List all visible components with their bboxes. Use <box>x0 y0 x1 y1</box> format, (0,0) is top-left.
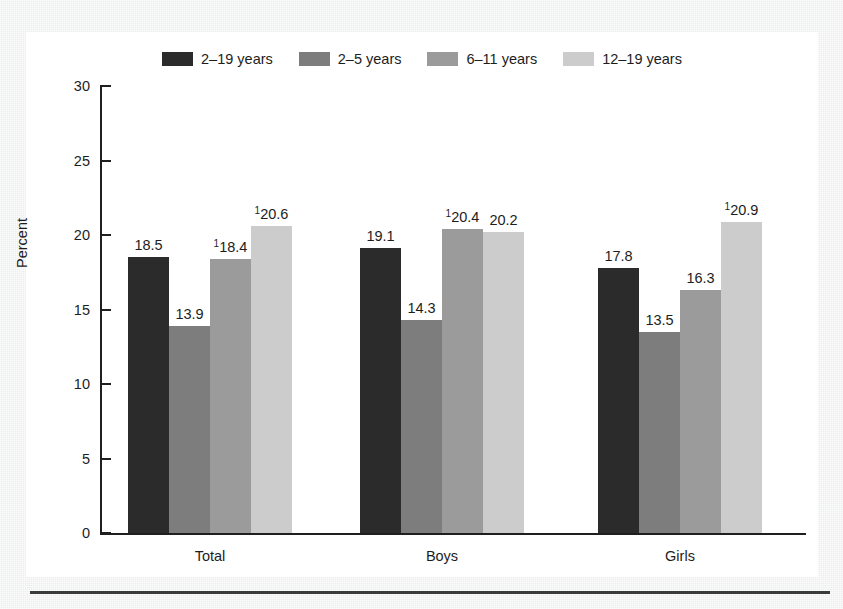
bar-boys-2[interactable] <box>442 229 483 533</box>
x-axis-line <box>100 533 806 535</box>
legend-swatch-2-5-years <box>299 52 330 66</box>
y-tick-label-20: 20 <box>34 228 90 243</box>
bar-total-3[interactable] <box>251 226 292 533</box>
bar-girls-0[interactable] <box>598 268 639 533</box>
legend-label-12-19-years: 12–19 years <box>602 52 682 67</box>
bar-value-label-girls-0: 17.8 <box>589 249 648 264</box>
x-axis-label-boys: Boys <box>382 548 502 564</box>
bar-boys-1[interactable] <box>401 320 442 533</box>
plot-area: 18.513.9118.4120.619.114.3120.420.217.81… <box>101 86 801 533</box>
legend-swatch-6-11-years <box>427 52 458 66</box>
y-tick-label-10: 10 <box>34 377 90 392</box>
legend-swatch-12-19-years <box>563 52 594 66</box>
bar-total-2[interactable] <box>210 259 251 533</box>
scanned-page-background: 2–19 years 2–5 years 6–11 years 12–19 ye… <box>0 0 843 609</box>
legend-item-1[interactable]: 2–5 years <box>299 52 402 67</box>
legend-label-6-11-years: 6–11 years <box>466 52 537 67</box>
bar-value-label-girls-3: 120.9 <box>712 203 771 218</box>
y-tick-label-25: 25 <box>34 154 90 169</box>
bar-boys-0[interactable] <box>360 248 401 533</box>
legend-item-2[interactable]: 6–11 years <box>427 52 537 67</box>
bar-total-0[interactable] <box>128 257 169 533</box>
legend-swatch-2-19-years <box>162 52 193 66</box>
chart-figure: 2–19 years 2–5 years 6–11 years 12–19 ye… <box>26 32 818 577</box>
bar-girls-3[interactable] <box>721 222 762 533</box>
bar-girls-2[interactable] <box>680 290 721 533</box>
bar-value-label-boys-0: 19.1 <box>351 229 410 244</box>
chart-legend: 2–19 years 2–5 years 6–11 years 12–19 ye… <box>26 52 818 67</box>
bar-girls-1[interactable] <box>639 332 680 533</box>
bar-value-label-total-3: 120.6 <box>242 207 301 222</box>
legend-label-2-19-years: 2–19 years <box>201 52 273 67</box>
x-axis-label-total: Total <box>150 548 270 564</box>
y-tick-label-0: 0 <box>34 526 90 541</box>
page-bottom-rule <box>30 591 830 594</box>
legend-label-2-5-years: 2–5 years <box>338 52 402 67</box>
x-axis-label-girls: Girls <box>620 548 740 564</box>
y-axis-title: Percent <box>14 218 30 268</box>
bar-total-1[interactable] <box>169 326 210 533</box>
bar-value-label-total-0: 18.5 <box>119 238 178 253</box>
legend-item-0[interactable]: 2–19 years <box>162 52 273 67</box>
y-tick-label-30: 30 <box>34 79 90 94</box>
bar-boys-3[interactable] <box>483 232 524 533</box>
bar-value-label-boys-3: 20.2 <box>474 213 533 228</box>
legend-item-3[interactable]: 12–19 years <box>563 52 682 67</box>
y-tick-label-15: 15 <box>34 303 90 318</box>
y-tick-label-5: 5 <box>34 452 90 467</box>
